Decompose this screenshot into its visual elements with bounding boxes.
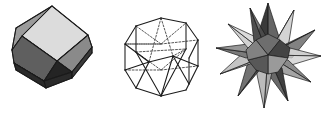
solid-polyhedron-svg [0, 0, 105, 113]
shape-panel-stellated-polyhedron: Stellated star polyhedron [212, 0, 325, 113]
antiprism-edge-1 [136, 18, 161, 26]
antiprism-edge-18 [173, 56, 198, 66]
antiprism-edge-10 [125, 70, 136, 88]
antiprism-hidden-edge-9 [136, 49, 186, 52]
antiprism-visible-edges [125, 18, 198, 96]
antiprism-hidden-edge-2 [161, 40, 198, 44]
solid-polyhedron-faces [12, 6, 92, 88]
antiprism-edge-3 [186, 23, 198, 40]
antiprism-edge-13 [186, 66, 198, 90]
antiprism-edge-2 [161, 18, 186, 23]
stellated-polyhedron-svg [212, 0, 325, 113]
antiprism-edge-16 [149, 56, 173, 62]
polyhedra-figure: Shaded solid polyhedron Hexagonal antipr… [0, 0, 325, 113]
antiprism-hidden-edge-0 [136, 26, 161, 44]
wireframe-antiprism-svg [103, 0, 213, 113]
antiprism-edge-0 [125, 26, 136, 44]
antiprism-hidden-edge-1 [161, 23, 186, 44]
antiprism-edge-4 [189, 40, 198, 58]
shape-panel-solid-polyhedron: Shaded solid polyhedron [0, 0, 105, 113]
shape-panel-wireframe-antiprism: Hexagonal antiprism wireframe [103, 0, 213, 113]
antiprism-edge-12 [161, 90, 186, 96]
antiprism-hidden-edge-4 [149, 18, 161, 62]
